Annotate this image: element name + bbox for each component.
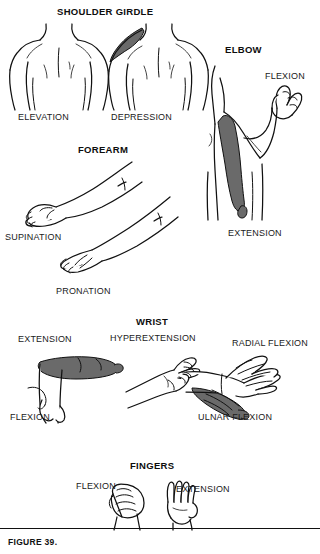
label-elbow-extension: EXTENSION xyxy=(228,228,282,238)
label-wrist-hyperextension: HYPEREXTENSION xyxy=(110,333,196,343)
section-title-wrist: WRIST xyxy=(136,316,168,327)
section-title-forearm: FOREARM xyxy=(78,144,128,155)
illustration-elbow xyxy=(200,60,315,225)
illustration-shoulder-elevation xyxy=(6,22,114,110)
caption-divider xyxy=(0,528,320,529)
label-depression: DEPRESSION xyxy=(111,112,172,122)
section-title-fingers: FINGERS xyxy=(130,460,174,471)
label-fingers-extension: EXTENSION xyxy=(176,484,230,494)
label-wrist-extension: EXTENSION xyxy=(18,334,72,344)
label-fingers-flexion: FLEXION xyxy=(76,481,116,491)
figure-caption: FIGURE 39. xyxy=(8,537,57,547)
label-elbow-flexion: FLEXION xyxy=(265,71,305,81)
label-ulnar-flexion: ULNAR FLEXION xyxy=(198,412,272,422)
label-wrist-flexion: FLEXION xyxy=(10,412,50,422)
label-pronation: PRONATION xyxy=(56,286,111,296)
illustration-forearm-pronation xyxy=(42,195,177,280)
label-elevation: ELEVATION xyxy=(18,112,69,122)
label-radial-flexion: RADIAL FLEXION xyxy=(232,338,308,348)
illustration-shoulder-depression xyxy=(106,22,214,110)
section-title-elbow: ELBOW xyxy=(225,44,262,55)
section-title-shoulder-girdle: SHOULDER GIRDLE xyxy=(57,6,153,17)
anatomy-figure: SHOULDER GIRDLE ELEVATION xyxy=(0,0,320,554)
